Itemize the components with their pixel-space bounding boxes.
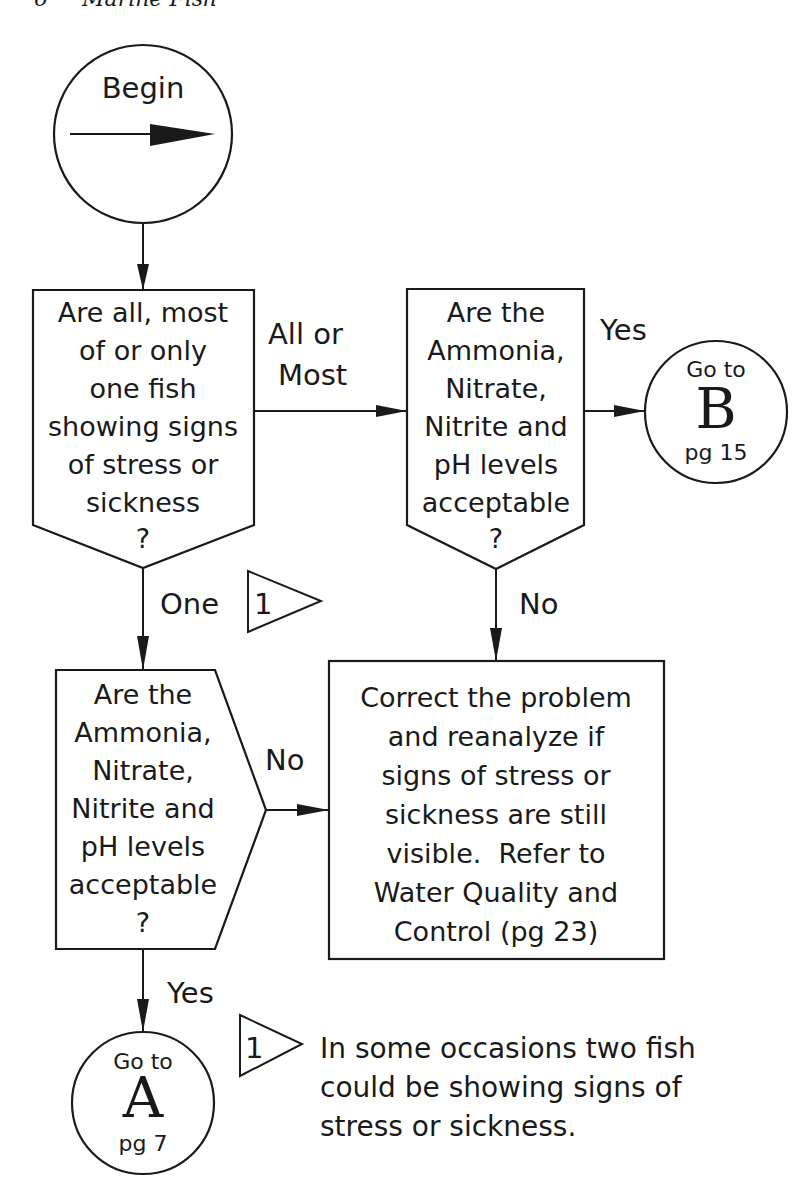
- edge-yes-to-b: Yes: [584, 313, 647, 417]
- process-text-line: Water Quality and: [374, 877, 618, 908]
- running-title: Marine Fish: [81, 0, 217, 11]
- decision-text-line: Are the: [94, 679, 192, 710]
- edge-label-yes-top: Yes: [599, 313, 647, 347]
- process-correct-problem: Correct the problem and reanalyze if sig…: [329, 661, 664, 959]
- process-text-line: sickness are still: [385, 799, 607, 830]
- edge-label-yes-bottom: Yes: [166, 976, 214, 1010]
- footnote-flag-number: 1: [245, 1031, 263, 1065]
- connector-b: Go to B pg 15: [645, 341, 787, 483]
- decision-text-line: Nitrate,: [92, 755, 194, 786]
- process-text-line: and reanalyze if: [388, 721, 606, 752]
- process-text-line: signs of stress or: [381, 760, 611, 791]
- decision-text-line: pH levels: [434, 449, 558, 480]
- decision-text-line: acceptable: [422, 487, 570, 518]
- decision-question-mark: ?: [489, 523, 503, 554]
- page-header: 6 Marine Fish: [34, 0, 217, 11]
- decision-text-line: sickness: [86, 487, 200, 518]
- decision-text-line: Are all, most: [58, 297, 228, 328]
- process-text-line: visible. Refer to: [386, 838, 605, 869]
- footnote: 1 In some occasions two fish could be sh…: [240, 1015, 696, 1143]
- decision-text-line: Nitrite and: [424, 411, 567, 442]
- edge-no-bottom: No: [265, 743, 329, 816]
- edge-label-no-top: No: [519, 587, 558, 621]
- begin-node: Begin: [54, 45, 232, 223]
- decision-text-line: showing signs: [48, 411, 238, 442]
- footnote-text-line: could be showing signs of: [320, 1071, 683, 1104]
- edge-begin-to-decision: [137, 223, 149, 290]
- decision-text-line: Nitrate,: [445, 373, 547, 404]
- note-flag-1: 1: [248, 571, 321, 632]
- note-flag-number: 1: [254, 587, 272, 621]
- edge-no-top: No: [490, 569, 558, 661]
- edge-label-one: One: [160, 587, 219, 621]
- decision-question-mark: ?: [136, 523, 150, 554]
- edge-label-no-bottom: No: [265, 743, 304, 777]
- decision-all-or-one: Are all, most of or only one fish showin…: [33, 290, 254, 568]
- edge-all-or-most: All or Most: [254, 317, 407, 417]
- page-number: 6: [34, 0, 48, 11]
- edge-yes-to-a: Yes: [137, 949, 214, 1032]
- decision-text-line: Ammonia,: [74, 717, 211, 748]
- footnote-text-line: stress or sickness.: [320, 1110, 576, 1143]
- decision-water-quality-top: Are the Ammonia, Nitrate, Nitrite and pH…: [407, 289, 584, 569]
- decision-text-line: pH levels: [81, 831, 205, 862]
- process-text-line: Correct the problem: [360, 682, 632, 713]
- edge-label-all-or: All or: [268, 317, 343, 351]
- decision-water-quality-bottom: Are the Ammonia, Nitrate, Nitrite and pH…: [56, 670, 266, 949]
- decision-text-line: one fish: [89, 373, 196, 404]
- connector-a: Go to A pg 7: [72, 1032, 214, 1174]
- connector-page: pg 15: [685, 440, 748, 465]
- footnote-text-line: In some occasions two fish: [320, 1032, 696, 1065]
- begin-label: Begin: [102, 71, 185, 105]
- edge-one: One: [137, 568, 219, 670]
- process-text-line: Control (pg 23): [394, 916, 598, 947]
- flowchart-canvas: 6 Marine Fish Begin Are all, most of or …: [0, 0, 810, 1184]
- decision-text-line: Ammonia,: [427, 335, 564, 366]
- connector-page: pg 7: [119, 1131, 168, 1156]
- connector-letter: B: [695, 376, 736, 441]
- decision-text-line: acceptable: [69, 869, 217, 900]
- decision-text-line: of stress or: [68, 449, 220, 480]
- edge-label-most: Most: [278, 358, 347, 392]
- decision-text-line: of or only: [79, 335, 207, 366]
- decision-question-mark: ?: [136, 907, 150, 938]
- decision-text-line: Are the: [447, 297, 545, 328]
- connector-letter: A: [122, 1065, 164, 1130]
- decision-text-line: Nitrite and: [71, 793, 214, 824]
